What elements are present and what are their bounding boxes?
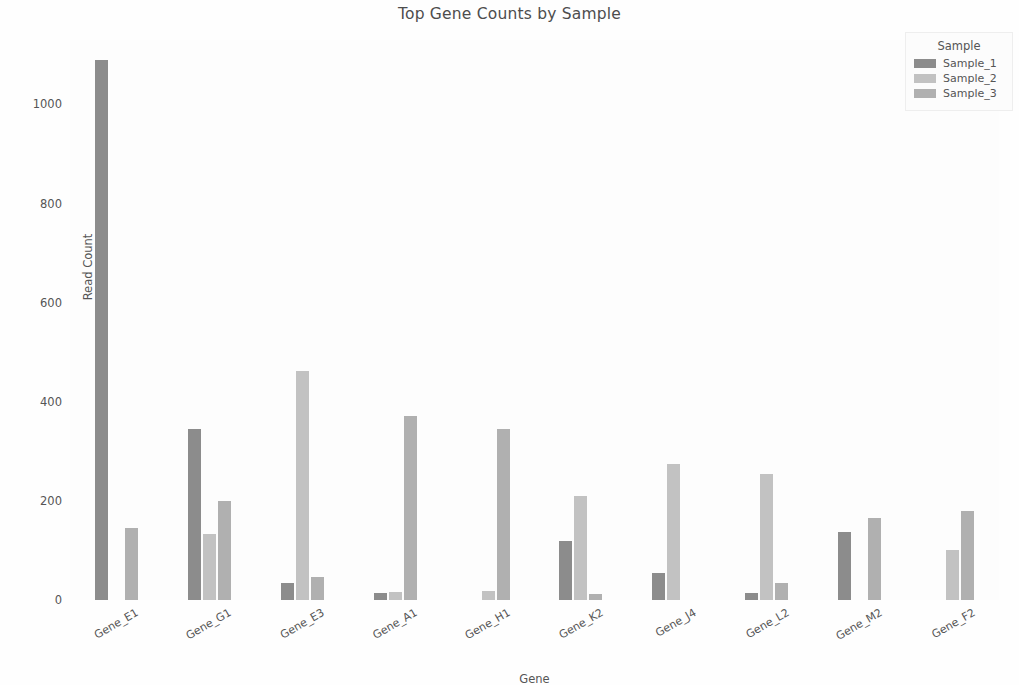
bar-group [652, 40, 695, 600]
chart-title: Top Gene Counts by Sample [0, 5, 1019, 23]
legend-item: Sample_1 [914, 57, 1004, 70]
bar-group [467, 40, 510, 600]
x-axis-tick-label: Gene_G1 [141, 606, 234, 667]
bar-group [281, 40, 324, 600]
y-axis-tick-label: 400 [40, 395, 62, 409]
bar-group [931, 40, 974, 600]
bar [838, 532, 851, 600]
bar [868, 518, 881, 600]
bar [311, 577, 324, 600]
bar [296, 371, 309, 600]
bar-group [838, 40, 881, 600]
bar [404, 416, 417, 600]
bar [218, 501, 231, 600]
bar [775, 583, 788, 600]
bar [760, 474, 773, 600]
legend-label: Sample_3 [943, 87, 997, 100]
legend-title: Sample [914, 39, 1004, 53]
x-axis-tick-label: Gene_H1 [419, 606, 512, 667]
x-axis-tick-label: Gene_L2 [698, 606, 791, 667]
x-axis-label: Gene [70, 672, 999, 685]
bar [574, 496, 587, 600]
y-axis-tick-label: 800 [40, 197, 62, 211]
bar-group [188, 40, 231, 600]
y-axis-tick-label: 1000 [33, 97, 62, 111]
bar [203, 534, 216, 600]
x-axis-tick-label: Gene_A1 [327, 606, 420, 667]
bar-group [745, 40, 788, 600]
bar [497, 429, 510, 600]
bar [125, 528, 138, 600]
chart-figure: Top Gene Counts by Sample Read Count 020… [0, 0, 1019, 685]
bar [559, 541, 572, 600]
legend-swatch-icon [914, 59, 936, 68]
bar-group [374, 40, 417, 600]
legend-item: Sample_3 [914, 87, 1004, 100]
x-axis-tick-label: Gene_K2 [512, 606, 605, 667]
bar [188, 429, 201, 600]
bar [589, 594, 602, 600]
y-axis-tick-label: 200 [40, 494, 62, 508]
x-axis-tick-label: Gene_E1 [48, 606, 141, 667]
legend-label: Sample_2 [943, 72, 997, 85]
legend-swatch-icon [914, 89, 936, 98]
y-axis-label: Read Count [81, 197, 95, 337]
legend-swatch-icon [914, 74, 936, 83]
bar [389, 592, 402, 600]
bar [667, 464, 680, 600]
legend-label: Sample_1 [943, 57, 997, 70]
legend-entries: Sample_1Sample_2Sample_3 [914, 57, 1004, 100]
bar [652, 573, 665, 600]
bar [482, 591, 495, 600]
bar-group [559, 40, 602, 600]
x-axis-tick-label: Gene_M2 [791, 606, 884, 667]
bar [745, 593, 758, 600]
y-axis-tick-label: 0 [55, 593, 62, 607]
y-axis-tick-label: 600 [40, 296, 62, 310]
x-axis-tick-label: Gene_F2 [884, 606, 977, 667]
x-axis-tick-label: Gene_E3 [234, 606, 327, 667]
bar [946, 550, 959, 600]
bar [281, 583, 294, 600]
bar [961, 511, 974, 600]
legend: Sample Sample_1Sample_2Sample_3 [905, 32, 1013, 111]
plot-area: Read Count 02004006008001000 Gene_E1Gene… [70, 40, 999, 600]
x-axis-tick-label: Gene_J4 [605, 606, 698, 667]
bar [95, 60, 108, 600]
bar [374, 593, 387, 600]
legend-item: Sample_2 [914, 72, 1004, 85]
bar-group [95, 40, 138, 600]
